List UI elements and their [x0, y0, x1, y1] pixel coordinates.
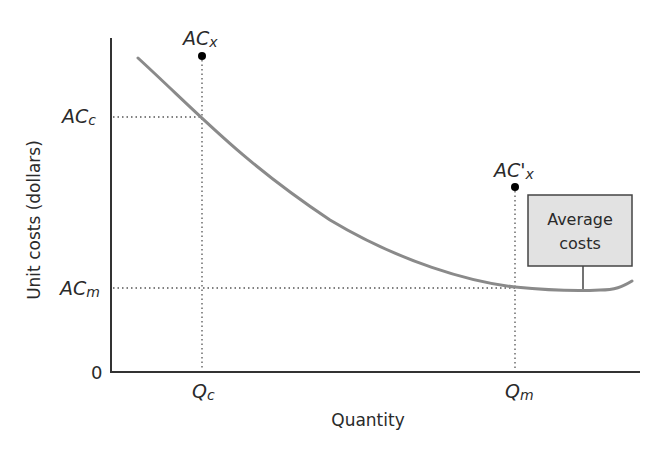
- cost-diagram: Average costs ACx AC'x ACc ACm 0 Qc Qm Q…: [0, 0, 669, 457]
- average-costs-box: [528, 195, 632, 266]
- qc-label: Qc: [192, 380, 215, 403]
- box-label-line2: costs: [559, 234, 601, 253]
- box-label-line1: Average: [547, 210, 613, 229]
- x-axis-title: Quantity: [331, 410, 404, 430]
- acx-prime-label: AC'x: [492, 159, 535, 182]
- acx-point: [198, 52, 206, 60]
- acx-label: ACx: [181, 27, 218, 50]
- y-axis-title: Unit costs (dollars): [24, 140, 44, 300]
- acm-label: ACm: [58, 277, 100, 300]
- origin-label: 0: [91, 362, 102, 383]
- acc-label: ACc: [60, 105, 96, 128]
- acx-prime-point: [511, 183, 519, 191]
- qm-label: Qm: [505, 380, 534, 403]
